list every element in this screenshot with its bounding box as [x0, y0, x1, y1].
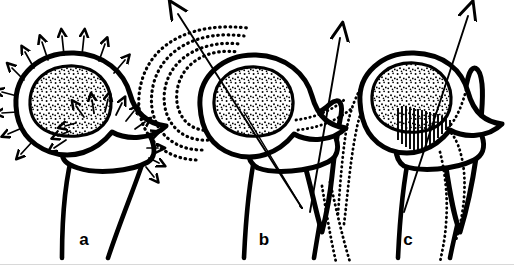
- panel-c-label: c: [403, 230, 412, 249]
- panel-b-label: b: [259, 230, 269, 249]
- anatomical-figure: a: [0, 0, 514, 267]
- panel-c-acetabulum-cartilage: [372, 63, 451, 132]
- panel-b-acetabulum-cartilage: [214, 67, 293, 136]
- panel-a-label: a: [79, 230, 89, 249]
- panel-a-acetabulum-cartilage: [30, 66, 111, 136]
- figure-canvas: a: [0, 0, 514, 267]
